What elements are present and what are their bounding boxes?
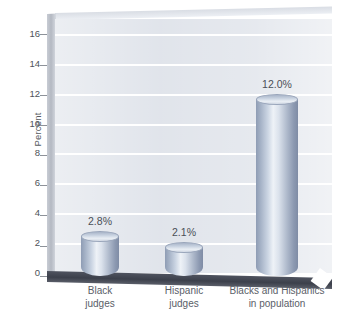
x-category-label-line: Blacks and Hispanics bbox=[217, 285, 337, 298]
bar-value-label: 2.8% bbox=[63, 215, 137, 227]
y-tick-label: 0 bbox=[24, 268, 40, 278]
y-tick-mark bbox=[40, 155, 47, 156]
y-tick-mark bbox=[40, 246, 47, 247]
bar-top-ellipse bbox=[165, 242, 203, 253]
y-tick-label: 12 bbox=[24, 89, 40, 99]
y-axis-ticks: 0246810121416 bbox=[20, 0, 40, 319]
y-tick-mark bbox=[40, 215, 47, 216]
bar-value-label: 2.1% bbox=[147, 226, 221, 238]
bar-body bbox=[256, 99, 298, 276]
y-tick-label: 6 bbox=[24, 178, 40, 188]
bar-chart: Percent 0246810121416 2.8%Blackjudges2.1… bbox=[0, 0, 343, 319]
bar-body bbox=[81, 236, 119, 276]
plot-top-edge bbox=[55, 6, 332, 20]
x-category-label-line: in population bbox=[217, 298, 337, 311]
y-tick-mark bbox=[40, 65, 47, 66]
bar-1 bbox=[81, 231, 119, 276]
y-tick-label: 16 bbox=[24, 29, 40, 39]
y-tick-mark bbox=[40, 276, 47, 277]
bar-value-label: 12.0% bbox=[238, 78, 316, 90]
gridline bbox=[55, 64, 332, 66]
y-tick-label: 2 bbox=[24, 238, 40, 248]
y-tick-mark bbox=[40, 125, 47, 126]
y-tick-mark bbox=[40, 95, 47, 96]
bar-top-ellipse bbox=[256, 94, 298, 105]
gridline bbox=[55, 34, 332, 36]
y-tick-mark bbox=[40, 34, 47, 35]
y-tick-label: 4 bbox=[24, 208, 40, 218]
y-tick-label: 10 bbox=[24, 119, 40, 129]
x-category-label: Blacks and Hispanicsin population bbox=[217, 285, 337, 310]
y-tick-label: 14 bbox=[24, 59, 40, 69]
bar-2 bbox=[165, 242, 203, 276]
bar-3 bbox=[256, 94, 298, 276]
y-tick-label: 8 bbox=[24, 148, 40, 158]
y-tick-mark bbox=[40, 185, 47, 186]
